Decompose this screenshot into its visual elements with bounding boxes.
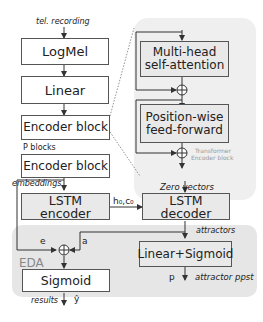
lstm-decoder-block: LSTM decoder: [142, 193, 230, 220]
h0c0-label: h₀,c₀: [113, 196, 134, 206]
p-output-label: p: [169, 272, 175, 282]
mhsa-line2: self-attention: [145, 59, 225, 72]
zero-vectors-label: Zero vectors: [160, 182, 214, 192]
logmel-label: LogMel: [42, 45, 88, 58]
linear-label: Linear: [45, 84, 85, 97]
lstm-encoder-label: LSTM encoder: [22, 194, 109, 220]
p-blocks-label: P blocks: [23, 143, 56, 152]
linear-block: Linear: [21, 76, 109, 104]
attractor-ppst-label: attractor ppst: [195, 272, 254, 282]
e-label: e: [40, 236, 46, 246]
ff-line1: Position-wise: [146, 111, 224, 124]
transformer-label-line2: Encoder block: [191, 154, 233, 161]
lstm-decoder-label: LSTM decoder: [143, 194, 229, 220]
position-wise-feed-forward-block: Position-wise feed-forward: [140, 104, 229, 143]
attractors-label: attractors: [196, 226, 235, 235]
encoder-block-p-label: Encoder block: [23, 160, 108, 173]
logmel-block: LogMel: [21, 38, 109, 65]
encoder-block-1-label: Encoder block: [23, 121, 108, 134]
linear-sigmoid-label: Linear+Sigmoid: [138, 248, 234, 261]
ff-line2: feed-forward: [146, 124, 223, 137]
embeddings-label: embeddings: [12, 179, 61, 188]
linear-sigmoid-block: Linear+Sigmoid: [139, 241, 232, 267]
y-hat-label: ŷ: [74, 294, 79, 304]
encoder-block-1: Encoder block: [21, 115, 110, 140]
eda-label: EDA: [19, 256, 44, 270]
encoder-block-p: Encoder block: [21, 154, 110, 178]
multi-head-self-attention-block: Multi-head self-attention: [140, 41, 229, 77]
a-label: a: [82, 236, 88, 246]
lstm-encoder-block: LSTM encoder: [21, 193, 110, 220]
input-label: tel. recording: [36, 17, 90, 26]
transformer-label-line1: Transformer: [191, 147, 233, 154]
results-label: results: [31, 296, 58, 305]
sigmoid-block: Sigmoid: [22, 269, 110, 292]
transformer-encoder-block-label: Transformer Encoder block: [191, 147, 233, 161]
sigmoid-label: Sigmoid: [41, 274, 92, 287]
